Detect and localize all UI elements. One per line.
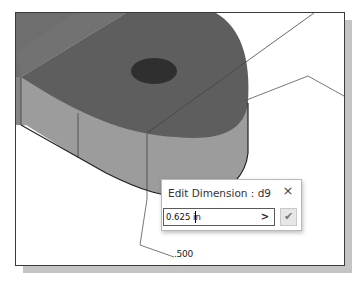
hole (131, 58, 177, 84)
ok-checkmark-button[interactable]: ✔ (280, 208, 297, 226)
chevron-right-icon[interactable]: > (257, 210, 273, 224)
frame-shadow-bottom (23, 265, 352, 273)
dialog-title: Edit Dimension : d9 (168, 187, 271, 199)
frame-shadow-right (344, 20, 352, 273)
close-icon[interactable]: × (281, 184, 295, 198)
checkmark-icon: ✔ (284, 210, 293, 223)
dimension-input-field[interactable]: > (163, 208, 275, 226)
leader-line-radius (244, 76, 344, 101)
dimension-label[interactable]: .500 (174, 249, 193, 259)
text-caret (195, 211, 196, 223)
cad-viewport[interactable]: .500 Edit Dimension : d9 × > ✔ (15, 12, 345, 266)
dimension-value-input[interactable] (166, 210, 254, 224)
edit-dimension-dialog: Edit Dimension : d9 × > ✔ (161, 179, 302, 231)
